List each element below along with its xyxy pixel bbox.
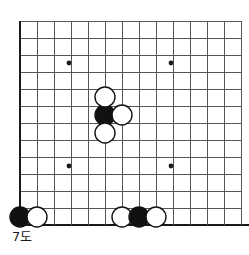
star-point <box>169 61 174 66</box>
white-stone <box>146 207 166 227</box>
board-grid-lines <box>20 21 249 225</box>
go-board <box>0 0 249 255</box>
white-stone <box>112 105 132 125</box>
diagram-caption: 7도 <box>12 229 32 245</box>
white-stone <box>27 207 47 227</box>
go-diagram: 7도 <box>0 0 249 255</box>
white-stone <box>95 123 115 143</box>
star-point <box>67 61 72 66</box>
star-point <box>169 164 174 169</box>
star-point <box>67 164 72 169</box>
white-stone <box>95 87 115 107</box>
